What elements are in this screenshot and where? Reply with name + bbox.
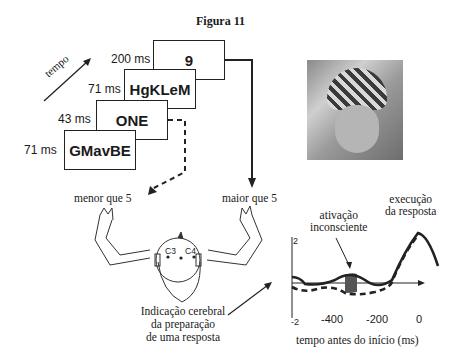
caption-line: de uma resposta (128, 331, 238, 344)
caption-line: da preparação (128, 318, 238, 331)
caption-line: Indicação cerebral (128, 305, 238, 318)
stimulus-mask-box: GMavBE (64, 130, 136, 170)
electrode-c3-label: C3 (165, 246, 176, 256)
head-caption: Indicação cerebral da preparação de uma … (128, 305, 238, 344)
annotation-line: ativação (310, 209, 367, 221)
duration-label: 200 ms (111, 52, 150, 66)
annotation-execution: execução da resposta (385, 193, 436, 217)
response-right-label: maior que 5 (222, 192, 277, 204)
duration-label: 43 ms (58, 112, 91, 126)
response-left-label: menor que 5 (74, 192, 131, 204)
electrode-cz-icon (179, 256, 182, 259)
eeg-cap-icon (327, 68, 387, 110)
duration-label: 71 ms (88, 82, 121, 96)
erp-chart (292, 233, 438, 318)
person-figure-icon (95, 206, 262, 302)
x-tick: -400 (321, 313, 343, 325)
eeg-photo (307, 60, 403, 160)
target-to-right-arrow-icon (224, 60, 256, 188)
annotation-unconscious: ativação inconsciente (310, 209, 367, 233)
y-tick-top: 2 (293, 236, 298, 246)
face-icon (335, 105, 379, 153)
electrode-c4-label: C4 (185, 246, 196, 256)
x-tick: -200 (366, 313, 388, 325)
x-axis-label: tempo antes do início (ms) (296, 334, 419, 346)
annotation-line: inconsciente (310, 221, 367, 233)
annotation-line: execução (385, 193, 436, 205)
x-tick: 0 (416, 313, 422, 325)
annotation-line: da resposta (385, 205, 436, 217)
y-tick-bottom: -2 (291, 317, 299, 327)
duration-label: 71 ms (24, 143, 57, 157)
